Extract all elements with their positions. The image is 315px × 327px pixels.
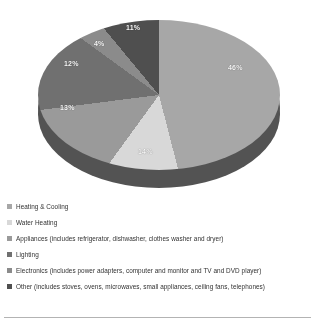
legend-label: Electronics (includes power adapters, co… xyxy=(16,267,261,274)
legend-swatch-icon xyxy=(7,236,12,241)
legend-item-appliances: Appliances (includes refrigerator, dishw… xyxy=(0,230,315,246)
pie-slice-label-lighting: 12% xyxy=(64,60,79,67)
chart-legend: Heating & Cooling Water Heating Applianc… xyxy=(0,198,315,294)
pie-top-face xyxy=(38,20,280,170)
legend-swatch-icon xyxy=(7,284,12,289)
legend-label: Heating & Cooling xyxy=(16,203,68,210)
legend-swatch-icon xyxy=(7,220,12,225)
legend-label: Water Heating xyxy=(16,219,57,226)
legend-label: Other (includes stoves, ovens, microwave… xyxy=(16,283,265,290)
pie-slice-label-heating-cooling: 46% xyxy=(228,64,243,71)
legend-item-heating-cooling: Heating & Cooling xyxy=(0,198,315,214)
legend-label: Lighting xyxy=(16,251,39,258)
pie-slice-label-other: 11% xyxy=(126,24,140,31)
legend-swatch-icon xyxy=(7,204,12,209)
legend-item-other: Other (includes stoves, ovens, microwave… xyxy=(0,278,315,294)
legend-item-lighting: Lighting xyxy=(0,246,315,262)
footer-divider xyxy=(4,317,311,318)
pie-slice-label-appliances: 13% xyxy=(60,104,75,111)
legend-swatch-icon xyxy=(7,268,12,273)
pie-graphic: 46% 14% 13% 12% 4% 11% xyxy=(38,12,280,184)
legend-swatch-icon xyxy=(7,252,12,257)
legend-item-electronics: Electronics (includes power adapters, co… xyxy=(0,262,315,278)
pie-chart: 46% 14% 13% 12% 4% 11% xyxy=(0,0,315,196)
pie-slice-label-water-heating: 14% xyxy=(138,148,153,155)
pie-slice-label-electronics: 4% xyxy=(94,40,105,47)
legend-item-water-heating: Water Heating xyxy=(0,214,315,230)
legend-label: Appliances (includes refrigerator, dishw… xyxy=(16,235,224,242)
